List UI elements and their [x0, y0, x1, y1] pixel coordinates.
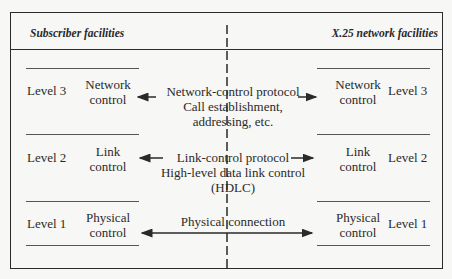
diagram-lines [0, 0, 452, 279]
